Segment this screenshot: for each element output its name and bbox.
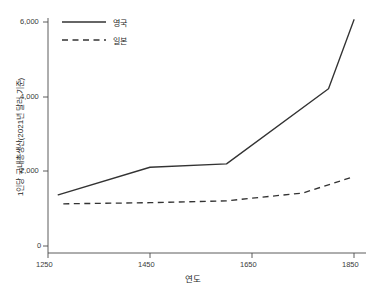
x-tick-label-1650: 1650: [240, 260, 257, 269]
series-line-uk: [58, 20, 354, 195]
x-axis-title: 연도: [185, 272, 201, 284]
y-tick-label-6000: 6,000: [20, 17, 39, 26]
legend-label-japan: 일본: [113, 35, 127, 46]
y-axis-title: 1인당 국내총생산(2021년 달러 기준): [14, 78, 25, 196]
x-tick-label-1250: 1250: [36, 260, 53, 269]
x-tick-label-1450: 1450: [138, 260, 155, 269]
x-tick-label-1850: 1850: [342, 260, 359, 269]
legend-label-uk: 영국: [113, 17, 127, 28]
y-tick-label-0: 0: [37, 241, 41, 250]
plot-area: [0, 0, 372, 288]
chart-figure: 6,000 4,000 2,000 0 1250 1450 1650 1850 …: [0, 0, 372, 288]
